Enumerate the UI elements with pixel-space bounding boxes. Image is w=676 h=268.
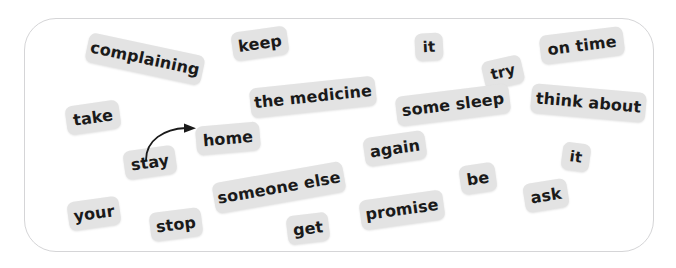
word-chip[interactable]: it (414, 32, 443, 61)
word-chip[interactable]: be (458, 162, 498, 196)
word-chip[interactable]: home (195, 121, 261, 155)
word-bank-canvas: complainingkeepiton timetrythe medicines… (0, 0, 676, 268)
word-chip[interactable]: it (560, 141, 592, 173)
word-chip[interactable]: get (285, 212, 330, 246)
